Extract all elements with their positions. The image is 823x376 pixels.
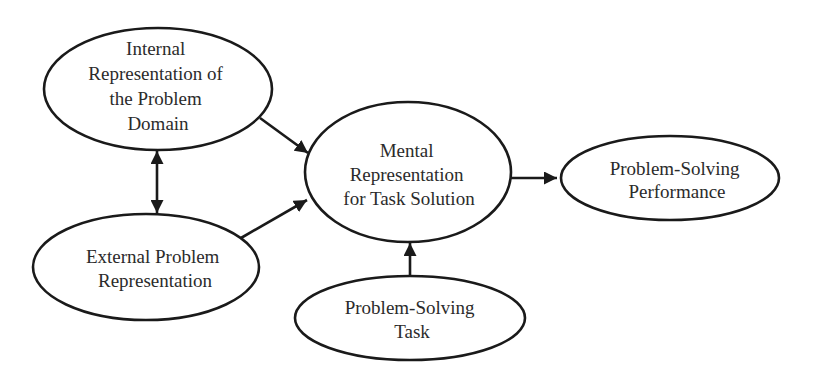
label-line: Internal: [126, 38, 185, 59]
node-external-ellipse: [33, 214, 259, 320]
diagram-canvas: Internal Representation of the Problem D…: [0, 0, 823, 376]
label-line: Problem-Solving: [610, 158, 740, 179]
label-line: Performance: [628, 181, 725, 202]
node-problem-solving-performance: Problem-Solving Performance: [561, 136, 779, 220]
nodes-layer: Internal Representation of the Problem D…: [33, 28, 779, 360]
label-line: for Task Solution: [343, 188, 475, 209]
label-line: External Problem: [86, 246, 220, 267]
edge-external-to-mental-arrow: [241, 200, 307, 238]
node-mental-representation: Mental Representation for Task Solution: [305, 102, 511, 242]
edge-internal-to-mental-arrow: [260, 118, 308, 153]
label-line: Task: [394, 321, 430, 342]
label-line: Representation of: [88, 63, 223, 84]
node-task-ellipse: [295, 276, 525, 360]
node-problem-solving-task: Problem-Solving Task: [295, 276, 525, 360]
node-external-problem-representation: External Problem Representation: [33, 214, 259, 320]
label-line: Problem-Solving: [345, 297, 475, 318]
label-line: Domain: [127, 113, 189, 134]
node-internal-representation: Internal Representation of the Problem D…: [44, 28, 272, 150]
label-line: the Problem: [109, 88, 202, 109]
label-line: Representation: [98, 270, 212, 291]
label-line: Representation: [350, 164, 464, 185]
label-line: Mental: [380, 140, 434, 161]
